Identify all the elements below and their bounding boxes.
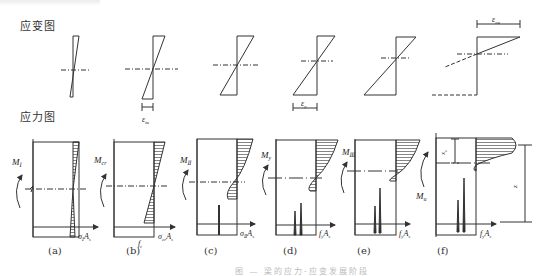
stress-diagram-a xyxy=(16,139,98,237)
force-label-e: fyAs xyxy=(399,229,410,239)
strain-label-f: εcu xyxy=(492,15,500,25)
force-label-d: fyAs xyxy=(319,229,330,239)
strain-diagram-e xyxy=(364,37,416,95)
strain-diagram-f xyxy=(432,20,520,95)
stress-diagram-d xyxy=(262,139,338,235)
force-label-f: fyAs xyxy=(480,229,491,239)
stress-diagram-c xyxy=(182,139,255,235)
strain-label-b: εtu xyxy=(142,115,150,125)
strain-diagram-d xyxy=(293,36,335,111)
moment-label-d: My xyxy=(260,150,272,161)
panel-label-a: (a) xyxy=(48,245,62,256)
moment-label-b: Mcr xyxy=(93,155,107,166)
moment-label-c: MⅡ xyxy=(179,155,193,166)
xc-label-f: xc xyxy=(439,149,448,156)
force-label-b: σcrAs xyxy=(158,232,173,242)
diagram-canvas: εtu εy εcu xyxy=(0,0,544,276)
z-label-f: z xyxy=(511,185,519,189)
panel-label-c: (c) xyxy=(204,245,217,256)
panel-label-b: (b) xyxy=(126,245,140,256)
moment-label-f: Mu xyxy=(415,191,427,202)
stress-diagram-b xyxy=(100,139,175,237)
figure-caption: 图 — 梁的应力-应变发展阶段 xyxy=(235,265,369,276)
moment-label-a: MⅠ xyxy=(11,157,23,168)
moment-label-e: MⅢ xyxy=(341,147,356,158)
panel-label-e: (e) xyxy=(357,245,371,256)
stress-diagram-f xyxy=(421,133,532,237)
strain-diagram-b xyxy=(125,36,178,111)
panel-label-f: (f) xyxy=(437,245,449,256)
strain-diagram-a xyxy=(61,36,89,97)
force-label-a: σⅠAs xyxy=(78,232,91,242)
strain-label-d: εy xyxy=(301,99,307,109)
force-label-c: σⅡAs xyxy=(240,229,254,239)
strain-diagram-c xyxy=(213,36,260,95)
panel-label-d: (d) xyxy=(283,245,297,256)
